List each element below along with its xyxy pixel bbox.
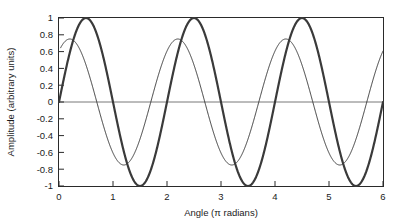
y-tick-label: -0.4 xyxy=(37,130,53,141)
y-tick-label: 0.6 xyxy=(40,46,53,57)
y-tick-label: 1 xyxy=(48,12,53,23)
chart-figure: 10.80.60.40.20-0.2-0.4-0.6-0.8-1 0123456… xyxy=(0,0,401,224)
y-tick-label: 0.4 xyxy=(40,63,53,74)
y-tick-label: 0.2 xyxy=(40,80,53,91)
y-tick-label: -1 xyxy=(45,180,53,191)
y-tick-label: 0 xyxy=(48,96,53,107)
y-tick-label: -0.2 xyxy=(37,113,53,124)
y-tick-label: -0.6 xyxy=(37,147,53,158)
y-tick-label: -0.8 xyxy=(37,164,53,175)
y-tick-label: 0.8 xyxy=(40,29,53,40)
x-tick-label: 0 xyxy=(56,191,61,202)
x-tick-label: 1 xyxy=(110,191,115,202)
x-tick-label: 4 xyxy=(272,191,277,202)
x-tick-label: 6 xyxy=(380,191,385,202)
x-tick-label: 3 xyxy=(218,191,223,202)
sine-wave-chart: 10.80.60.40.20-0.2-0.4-0.6-0.8-1 0123456… xyxy=(0,0,401,224)
x-axis-title: Angle (π radians) xyxy=(184,207,258,218)
y-axis-title: Amplitude (arbitrary units) xyxy=(5,48,16,157)
x-tick-label: 5 xyxy=(326,191,331,202)
x-tick-label: 2 xyxy=(164,191,169,202)
